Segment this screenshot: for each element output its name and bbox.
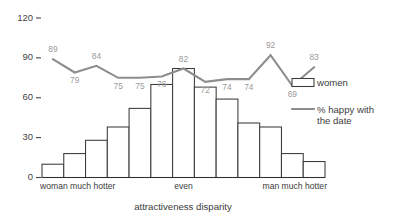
y-tick-label: 90 xyxy=(22,51,33,62)
bar xyxy=(260,127,282,178)
x-axis-title: attractiveness disparity xyxy=(134,201,232,212)
bar xyxy=(238,123,260,177)
line-point-label: 74 xyxy=(244,82,254,92)
y-tick-label: 30 xyxy=(22,131,33,142)
bar xyxy=(86,140,108,177)
chart-container: 0306090120 89798475757682727474926983 wo… xyxy=(0,0,395,217)
line-point-label: 74 xyxy=(222,82,232,92)
legend-label-happy-line-1: % happy with xyxy=(317,104,374,115)
legend: women % happy with the date xyxy=(292,77,374,126)
bar xyxy=(64,154,86,178)
line-point-label: 89 xyxy=(48,44,58,54)
x-category-labels: woman much hotterevenman much hotter xyxy=(39,181,327,191)
y-tick-label: 0 xyxy=(28,171,33,182)
bar xyxy=(129,108,151,177)
x-label-woman-much-hotter: woman much hotter xyxy=(39,181,116,191)
y-axis: 0306090120 xyxy=(17,12,41,183)
bar xyxy=(216,99,238,177)
bar xyxy=(281,154,303,178)
line-point-label: 69 xyxy=(288,89,298,99)
line-point-label: 83 xyxy=(309,52,319,62)
line-point-label: 84 xyxy=(92,51,102,61)
bar-series-women xyxy=(42,69,325,178)
x-label-man-much-hotter: man much hotter xyxy=(263,181,328,191)
legend-label-women: women xyxy=(316,77,348,88)
legend-label-happy-line-2: the date xyxy=(317,115,352,126)
x-label-even: even xyxy=(174,181,193,191)
bar xyxy=(42,164,64,177)
line-point-label: 72 xyxy=(201,85,211,95)
line-point-label: 79 xyxy=(70,75,80,85)
bar xyxy=(173,69,195,178)
line-point-label: 75 xyxy=(114,81,124,91)
y-tick-label: 120 xyxy=(17,12,33,23)
bar xyxy=(194,87,216,177)
line-point-label: 92 xyxy=(266,40,276,50)
line-point-label: 82 xyxy=(179,54,189,64)
bar xyxy=(107,127,129,178)
attractiveness-disparity-chart: 0306090120 89798475757682727474926983 wo… xyxy=(0,0,395,217)
y-tick-label: 60 xyxy=(22,91,33,102)
legend-swatch-women xyxy=(292,79,314,87)
bar xyxy=(303,162,325,178)
line-point-label: 75 xyxy=(135,81,145,91)
line-point-label: 76 xyxy=(157,79,167,89)
bar xyxy=(151,84,173,177)
